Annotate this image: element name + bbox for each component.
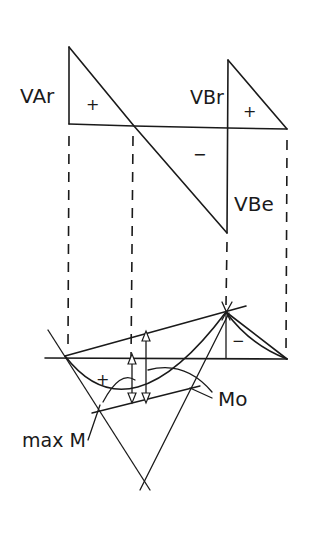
dashed-line-zero-shear [131,136,133,360]
label-plus-left: + [86,95,99,114]
arrow-down-2 [142,393,150,403]
dashed-line-b [226,242,227,305]
bending-moment-diagram: + − Mo max M [22,302,287,490]
m0-leader [190,388,212,398]
m0-curve-right [148,368,212,392]
tangent-left [48,330,150,490]
arrow-down-1 [128,393,136,403]
shear-right-diagonal [228,60,287,129]
tangent-right [140,313,229,490]
shear-baseline [69,124,287,129]
label-plus-right: + [243,102,256,121]
shear-force-diagram: VAr + VBr + − VBe [20,47,287,233]
label-vbr: VBr [190,86,224,108]
shear-moment-diagram: VAr + VBr + − VBe [0,0,310,535]
label-var: VAr [20,84,55,108]
label-m0: Mo [218,387,248,411]
dashed-line-a [68,136,69,345]
label-minus-moment: − [232,332,245,350]
dashed-line-c [286,140,287,352]
label-max-m: max M [22,429,86,451]
label-minus-shear: − [193,145,206,164]
closing-line [65,306,246,356]
label-vbe: VBe [234,192,274,216]
max-m-leader [88,405,100,440]
shear-diagonal [69,47,227,233]
label-plus-moment: + [96,370,109,389]
moment-baseline [45,358,287,359]
shear-jump-at-b [227,60,228,233]
projection-lines [68,136,287,360]
